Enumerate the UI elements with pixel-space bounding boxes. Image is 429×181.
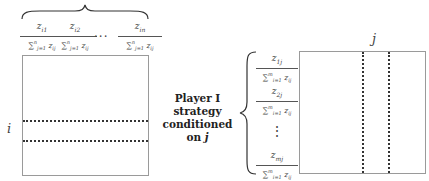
row-fraction-1: z1j ∑mi=1 zij bbox=[256, 53, 298, 85]
column-j-left-dashed-line bbox=[362, 52, 364, 173]
column-label-j: j bbox=[372, 31, 376, 46]
column-fraction-2: zi2 ∑nj=1 zij bbox=[53, 21, 97, 53]
column-j-right-dashed-line bbox=[388, 52, 390, 173]
player-strategy-label: Player I strategy conditioned on j bbox=[160, 92, 235, 144]
row-label-i: i bbox=[7, 121, 11, 136]
top-brace-icon bbox=[20, 4, 150, 20]
row-i-bottom-dashed-line bbox=[23, 140, 148, 142]
row-fraction-m: zmj ∑mi=1 zij bbox=[256, 150, 298, 181]
column-fraction-n: zin ∑nj=1 zij bbox=[118, 21, 162, 53]
side-brace-icon bbox=[238, 50, 258, 176]
column-ellipsis: ··· bbox=[94, 30, 108, 44]
row-vertical-ellipsis: ⋮ bbox=[270, 124, 284, 138]
left-matrix bbox=[22, 55, 149, 176]
row-fraction-2: z2j ∑mi=1 zij bbox=[256, 86, 298, 118]
row-i-top-dashed-line bbox=[23, 120, 148, 122]
